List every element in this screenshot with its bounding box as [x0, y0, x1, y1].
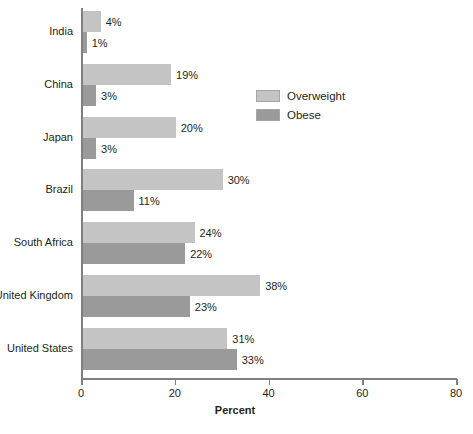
- bar-obese: [82, 32, 87, 53]
- category-label-brazil: Brazil: [45, 183, 73, 195]
- bar-value-label: 30%: [228, 174, 250, 186]
- bar-value-label: 3%: [101, 90, 117, 102]
- x-tick: [269, 379, 271, 385]
- bar-value-label: 22%: [190, 248, 212, 260]
- category-label-japan: Japan: [43, 131, 73, 143]
- bar-value-label: 38%: [265, 280, 287, 292]
- x-tick-label: 80: [441, 387, 471, 399]
- bar-value-label: 23%: [195, 301, 217, 313]
- bar-obese: [82, 190, 134, 211]
- y-axis-line: [81, 8, 83, 379]
- bar-group: 30%11%: [82, 169, 457, 211]
- bar-chart: 4%1%India19%3%China20%3%Japan30%11%Brazi…: [0, 0, 473, 434]
- bar-obese: [82, 85, 96, 106]
- bar-group: 31%33%: [82, 328, 457, 370]
- category-label-india: India: [49, 25, 73, 37]
- bar-value-label: 3%: [101, 143, 117, 155]
- x-tick: [456, 379, 458, 385]
- legend-swatch-overweight-icon: [256, 90, 280, 102]
- bar-overweight: [82, 117, 176, 138]
- bar-overweight: [82, 328, 227, 349]
- legend-swatch-obese-icon: [256, 109, 280, 121]
- bar-obese: [82, 349, 237, 370]
- legend-item-obese: Obese: [256, 109, 345, 121]
- x-tick-label: 0: [66, 387, 96, 399]
- bar-value-label: 24%: [200, 227, 222, 239]
- x-tick: [175, 379, 177, 385]
- bar-group: 24%22%: [82, 222, 457, 264]
- bar-value-label: 20%: [181, 122, 203, 134]
- legend-label-overweight: Overweight: [287, 90, 345, 102]
- category-label-united-kingdom: United Kingdom: [0, 289, 73, 301]
- legend-item-overweight: Overweight: [256, 90, 345, 102]
- bar-value-label: 31%: [232, 333, 254, 345]
- x-tick-label: 60: [347, 387, 377, 399]
- bar-value-label: 33%: [242, 354, 264, 366]
- bar-overweight: [82, 64, 171, 85]
- bar-group: 38%23%: [82, 275, 457, 317]
- category-label-china: China: [44, 78, 73, 90]
- category-label-united-states: United States: [7, 342, 73, 354]
- bar-obese: [82, 138, 96, 159]
- bar-obese: [82, 243, 185, 264]
- category-label-south-africa: South Africa: [14, 236, 73, 248]
- bar-overweight: [82, 222, 195, 243]
- bar-value-label: 4%: [106, 16, 122, 28]
- bar-overweight: [82, 275, 260, 296]
- x-tick: [362, 379, 364, 385]
- x-axis-title: Percent: [185, 404, 285, 416]
- bar-obese: [82, 296, 190, 317]
- bar-group: 4%1%: [82, 11, 457, 53]
- bar-overweight: [82, 11, 101, 32]
- legend-label-obese: Obese: [287, 109, 321, 121]
- bar-value-label: 19%: [176, 69, 198, 81]
- bar-overweight: [82, 169, 223, 190]
- bar-value-label: 1%: [92, 37, 108, 49]
- x-tick: [81, 379, 83, 385]
- plot-area: 4%1%India19%3%China20%3%Japan30%11%Brazi…: [82, 8, 457, 378]
- chart-legend: Overweight Obese: [256, 90, 345, 128]
- bar-value-label: 11%: [139, 195, 160, 207]
- x-tick-label: 20: [160, 387, 190, 399]
- x-tick-label: 40: [254, 387, 284, 399]
